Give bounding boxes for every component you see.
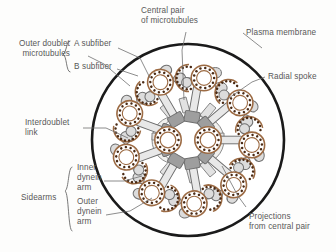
label-projections-line2: from central pair xyxy=(249,222,310,232)
label-central-pair-line2: of microtubules xyxy=(141,16,198,26)
label-central-pair-line1: Central pair xyxy=(141,6,198,16)
label-inner-dynein-line3: arm xyxy=(77,183,102,193)
label-radial-spoke: Radial spoke xyxy=(268,72,317,82)
label-projections-line1: Projections xyxy=(249,212,310,222)
label-b-subfiber: B subfiber xyxy=(74,62,112,72)
label-inner-dynein-line2: dynein xyxy=(77,173,102,183)
label-outer-dynein-arm: Outer dynein arm xyxy=(77,197,102,228)
label-sidearms: Sidearms xyxy=(21,193,56,203)
label-outer-dynein-line3: arm xyxy=(77,217,102,227)
label-outer-doublet-line2: microtubules xyxy=(6,49,70,59)
label-interdoublet-link: Interdoublet link xyxy=(25,118,69,138)
label-projections-from-central-pair: Projections from central pair xyxy=(249,212,310,232)
label-a-subfiber: A subfiber xyxy=(74,39,111,49)
label-central-pair: Central pair of microtubules xyxy=(141,6,198,26)
axoneme-diagram-page: Outer doublet microtubules A subfiber B … xyxy=(0,0,336,252)
label-interdoublet-line2: link xyxy=(25,128,69,138)
label-inner-dynein-line1: Inner xyxy=(77,163,102,173)
label-interdoublet-line1: Interdoublet xyxy=(25,118,69,128)
label-outer-doublet-microtubules: Outer doublet microtubules xyxy=(6,39,70,59)
label-plasma-membrane: Plasma membrane xyxy=(246,28,316,38)
label-outer-dynein-line1: Outer xyxy=(77,197,102,207)
brace-sidearms xyxy=(65,167,72,231)
label-outer-dynein-line2: dynein xyxy=(77,207,102,217)
label-inner-dynein-arm: Inner dynein arm xyxy=(77,163,102,194)
label-outer-doublet-line1: Outer doublet xyxy=(6,39,70,49)
